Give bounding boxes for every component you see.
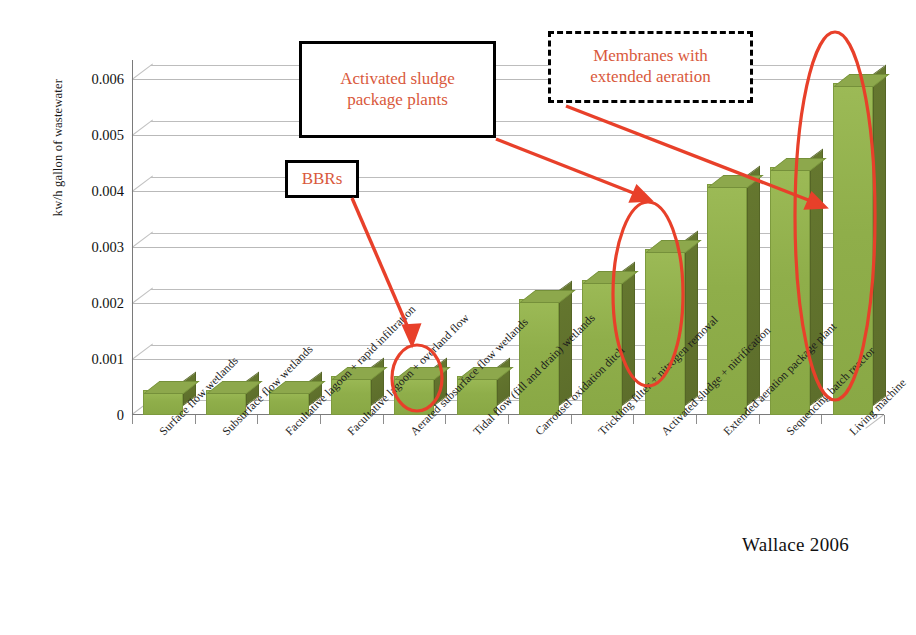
annotation-membranes-line2: extended aeration xyxy=(590,67,710,88)
x-label-9: Extended aeration package plant xyxy=(721,320,839,438)
x-label-2: Facultative lagoon + rapid infiltration xyxy=(283,303,418,438)
annotation-activated-sludge[interactable]: Activated sludge package plants xyxy=(299,41,496,138)
x-label-7: Trickling filter + nitrogen removal xyxy=(596,313,721,438)
annotation-membranes[interactable]: Membranes with extended aeration xyxy=(548,31,753,103)
chart-canvas: kw/h gallon of wastewater 0 0.001 0.002 … xyxy=(0,0,916,635)
x-label-3: Facultative lagoon + overland flow xyxy=(345,311,472,438)
x-label-5: Tidal flow (fill and drain) wetlands xyxy=(471,311,598,438)
annotation-activated-sludge-line2: package plants xyxy=(340,90,455,111)
x-label-4: Aerated subsurface flow wetlands xyxy=(408,315,531,438)
x-label-11: Living machine xyxy=(847,376,909,438)
annotation-bbrs-line1: BBRs xyxy=(302,169,343,190)
annotation-bbrs[interactable]: BBRs xyxy=(285,160,359,198)
annotation-activated-sludge-line1: Activated sludge xyxy=(340,69,455,90)
source-label: Wallace 2006 xyxy=(742,534,849,556)
x-label-8: Activated sludge + nitrification xyxy=(659,324,773,438)
annotation-membranes-line1: Membranes with xyxy=(590,46,710,67)
